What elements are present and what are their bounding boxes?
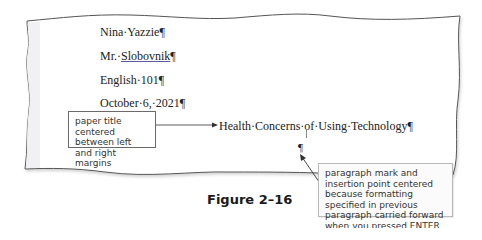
empty-paragraph-mark-icon: ¶	[298, 141, 303, 153]
line-text: English·101	[100, 73, 159, 87]
title-text: Health·Concerns·of·Using·Technology	[219, 119, 407, 133]
paragraph-mark-icon: ¶	[170, 49, 175, 63]
paragraph-mark-icon: ¶	[180, 96, 185, 110]
spell-flagged-word: Slobovnik	[121, 49, 170, 63]
figure-caption: Figure 2–16	[207, 192, 292, 207]
line-text: Mr.·	[100, 49, 121, 63]
callout-title-centered: paper title centered between left and ri…	[68, 111, 156, 148]
paper-title: Health·Concerns·of·Using·Technology¶	[219, 119, 413, 134]
doc-line-instructor: Mr.·Slobovnik¶	[100, 49, 176, 64]
doc-line-date: October·6,·2021¶	[100, 96, 185, 111]
paragraph-mark-icon: ¶	[159, 73, 164, 87]
ibeam-cursor-icon	[306, 129, 307, 138]
line-text: Nina·Yazzie	[100, 25, 159, 39]
doc-line-course: English·101¶	[100, 73, 164, 88]
line-text: October·6,·2021	[100, 96, 180, 110]
callout-paragraph-mark: paragraph mark and insertion point cente…	[318, 163, 453, 217]
doc-line-name: Nina·Yazzie¶	[100, 25, 165, 40]
paragraph-mark-icon: ¶	[407, 119, 412, 133]
paragraph-mark-icon: ¶	[159, 25, 164, 39]
